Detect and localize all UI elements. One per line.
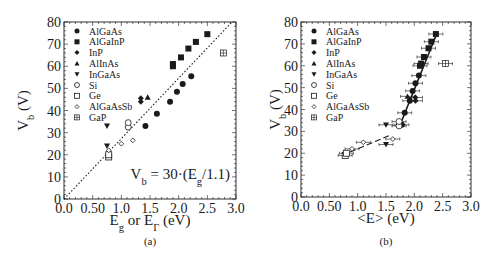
y-tick-label: 0 xyxy=(291,190,298,205)
legend-label: AlGaAs xyxy=(89,26,122,37)
marker-filled-circle xyxy=(180,81,186,87)
x-tick-label: 2.5 xyxy=(434,199,452,214)
marker-triangle-down xyxy=(75,72,80,77)
marker-open-diamond xyxy=(130,138,135,143)
legend-label: Ge xyxy=(326,90,338,101)
marker-filled-circle xyxy=(402,110,408,116)
y-tick-label: 80 xyxy=(284,15,298,30)
marker-filled-square xyxy=(433,31,439,37)
legend-label: Ge xyxy=(89,90,101,101)
marker-filled-square xyxy=(418,61,424,67)
x-axis-label: <E> (eV) xyxy=(357,210,414,227)
marker-filled-circle xyxy=(154,111,160,117)
marker-filled-square xyxy=(185,46,191,52)
legend-label: GaP xyxy=(89,112,107,123)
y-tick-label: 70 xyxy=(47,37,61,52)
marker-filled-square xyxy=(421,54,427,60)
y-tick-label: 10 xyxy=(284,168,298,183)
marker-filled-diamond xyxy=(75,50,80,55)
marker-open-square xyxy=(75,93,80,98)
marker-open-diamond xyxy=(312,105,316,109)
marker-filled-diamond xyxy=(312,50,317,55)
y-tick-label: 80 xyxy=(47,15,61,30)
legend-label: Si xyxy=(89,80,98,91)
marker-open-diamond xyxy=(390,137,395,142)
legend: AlGaAsAlGaInPInPAlInAsInGaAsSiGeAlGaAsSb… xyxy=(312,26,370,123)
marker-filled-circle xyxy=(188,73,194,79)
legend-label: AlGaAs xyxy=(326,26,359,37)
marker-filled-circle xyxy=(174,89,180,95)
marker-triangle-up xyxy=(75,61,80,66)
marker-open-square xyxy=(343,150,349,156)
marker-filled-circle xyxy=(142,123,148,129)
y-tick-label: 50 xyxy=(284,81,298,96)
marker-filled-circle xyxy=(416,73,422,79)
y-tick-label: 20 xyxy=(284,146,298,161)
chart-panel-a: 0.00.501.01.52.02.53.001020304050607080E… xyxy=(15,15,245,248)
marker-filled-circle xyxy=(312,29,317,34)
marker-filled-square xyxy=(426,45,432,51)
y-axis-label: Vb (V) xyxy=(15,90,36,131)
marker-open-diamond xyxy=(75,105,79,109)
y-tick-label: 60 xyxy=(47,59,61,74)
legend-label: AlGaAsSb xyxy=(326,101,369,112)
panel-label: (a) xyxy=(144,235,157,248)
marker-open-circle xyxy=(396,119,402,125)
marker-triangle-up xyxy=(145,94,151,99)
legend-label: AlInAs xyxy=(326,58,356,69)
legend-label: InGaAs xyxy=(326,69,357,80)
marker-open-circle xyxy=(125,120,131,126)
marker-open-circle xyxy=(312,83,317,88)
marker-triangle-down xyxy=(312,72,317,77)
y-tick-label: 10 xyxy=(47,170,61,185)
y-tick-label: 30 xyxy=(284,124,298,139)
x-tick-label: 0.50 xyxy=(317,199,342,214)
y-tick-label: 30 xyxy=(47,126,61,141)
marker-open-diamond xyxy=(361,140,366,145)
y-tick-label: 60 xyxy=(284,59,298,74)
x-tick-label: 3.0 xyxy=(462,199,480,214)
figure: 0.00.501.01.52.02.53.001020304050607080E… xyxy=(0,0,494,265)
marker-triangle-up xyxy=(312,61,317,66)
formula-annotation: Vb = 30·(Eg/1.1) xyxy=(131,166,230,187)
marker-filled-circle xyxy=(167,99,173,105)
legend-label: InP xyxy=(326,47,340,58)
legend-label: GaP xyxy=(326,112,344,123)
legend-label: AlGaInP xyxy=(89,36,125,47)
x-tick-label: 2.5 xyxy=(199,201,217,216)
marker-filled-diamond xyxy=(138,95,144,101)
y-tick-label: 40 xyxy=(47,104,61,119)
marker-filled-circle xyxy=(410,88,416,94)
panel-label: (b) xyxy=(380,235,393,248)
data-points xyxy=(338,31,452,158)
marker-triangle-down xyxy=(383,122,389,127)
marker-filled-square xyxy=(75,39,80,44)
legend-label: AlInAs xyxy=(89,58,119,69)
axes-ticks: 0.00.501.01.52.02.53.001020304050607080 xyxy=(284,15,480,214)
legend-label: InGaAs xyxy=(89,69,120,80)
chart-panel-b: 0.00.501.01.52.02.53.001020304050607080<… xyxy=(267,15,480,248)
marker-filled-square xyxy=(170,61,176,67)
legend-label: Si xyxy=(326,80,335,91)
marker-filled-diamond xyxy=(412,94,418,100)
marker-filled-square xyxy=(204,31,210,37)
legend-label: InP xyxy=(89,47,103,58)
marker-open-square xyxy=(312,93,317,98)
marker-open-diamond xyxy=(119,141,124,146)
marker-open-circle xyxy=(75,83,80,88)
marker-filled-square xyxy=(428,39,434,45)
y-tick-label: 70 xyxy=(284,37,298,52)
x-tick-label: 3.0 xyxy=(227,201,245,216)
y-tick-label: 50 xyxy=(47,81,61,96)
marker-filled-circle xyxy=(75,29,80,34)
legend: AlGaAsAlGaInPInPAlInAsInGaAsSiGeAlGaAsSb… xyxy=(75,26,133,123)
y-tick-label: 20 xyxy=(47,148,61,163)
legend-label: AlGaAsSb xyxy=(89,101,132,112)
legend-label: AlGaInP xyxy=(326,36,362,47)
marker-filled-circle xyxy=(412,80,418,86)
marker-filled-square xyxy=(312,39,317,44)
marker-filled-square xyxy=(193,39,199,45)
y-tick-label: 0 xyxy=(54,192,61,207)
marker-triangle-down xyxy=(104,124,110,129)
marker-filled-square xyxy=(178,54,184,60)
